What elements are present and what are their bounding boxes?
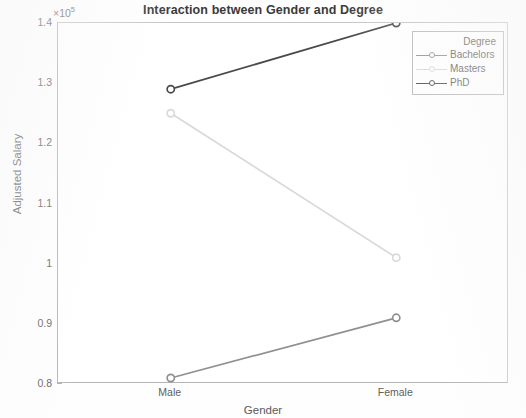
x-axis-tick-label: Female	[378, 386, 413, 398]
series-line	[171, 23, 397, 89]
legend-title: Degree	[413, 35, 503, 48]
legend-marker	[429, 66, 435, 72]
legend: Degree BachelorsMastersPhD	[412, 31, 504, 95]
x-axis-tick-label: Male	[158, 386, 181, 398]
legend-swatch-icon	[416, 77, 447, 89]
y-axis-tick-label: 0.9	[37, 317, 52, 329]
data-point-marker	[393, 23, 400, 27]
y-axis-title: Adjusted Salary	[11, 84, 23, 264]
data-point-marker	[167, 110, 174, 117]
chart-title: Interaction between Gender and Degree	[0, 3, 526, 17]
figure-canvas: Interaction between Gender and Degree ×1…	[0, 0, 526, 418]
legend-entry-masters[interactable]: Masters	[413, 62, 503, 76]
y-axis-tick-label: 0.8	[37, 377, 52, 389]
series-phd	[167, 23, 400, 93]
y-axis-exponent-base: ×10	[53, 7, 71, 19]
y-axis-tick-label: 1.2	[37, 136, 52, 148]
legend-swatch-icon	[416, 49, 447, 61]
y-axis-tick-label: 1	[46, 257, 52, 269]
y-axis-exponent-label: ×105	[53, 5, 75, 19]
data-point-marker	[393, 254, 400, 261]
series-line	[171, 318, 397, 378]
y-axis-tick-label: 1.1	[37, 197, 52, 209]
y-axis-exponent-power: 5	[71, 5, 75, 14]
series-line	[171, 113, 397, 257]
data-point-marker	[167, 374, 174, 381]
legend-marker	[429, 52, 435, 58]
series-masters	[167, 110, 400, 262]
legend-label: Bachelors	[450, 49, 494, 61]
legend-marker	[429, 80, 435, 86]
legend-swatch-icon	[416, 63, 447, 75]
data-point-marker	[167, 86, 174, 93]
legend-entry-phd[interactable]: PhD	[413, 76, 503, 90]
data-point-marker	[393, 314, 400, 321]
y-axis-tick-label: 1.3	[37, 76, 52, 88]
legend-label: Masters	[450, 63, 486, 75]
series-bachelors	[167, 314, 400, 381]
legend-entry-bachelors[interactable]: Bachelors	[413, 48, 503, 62]
legend-label: PhD	[450, 77, 469, 89]
y-axis-tick-label: 1.4	[37, 16, 52, 28]
x-axis-title: Gender	[0, 404, 526, 416]
legend-entry-group: BachelorsMastersPhD	[413, 48, 503, 90]
